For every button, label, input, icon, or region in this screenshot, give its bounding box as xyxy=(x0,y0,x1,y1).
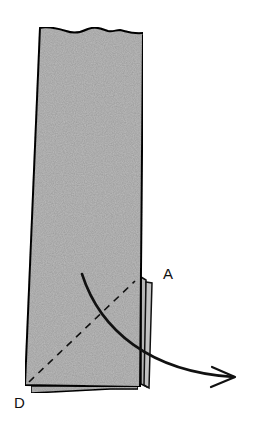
folding-diagram: A D xyxy=(0,0,253,434)
paper-strip xyxy=(25,27,143,387)
side-flaps xyxy=(141,277,152,388)
diagram-svg xyxy=(0,0,253,434)
corner-label-a: A xyxy=(163,266,173,281)
corner-label-d: D xyxy=(14,395,25,410)
